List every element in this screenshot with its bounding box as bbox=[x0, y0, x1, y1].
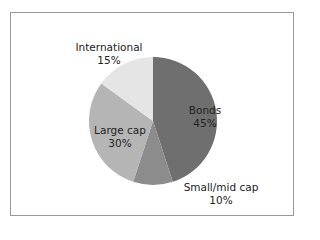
label-international-name: International bbox=[70, 41, 148, 54]
label-large-cap-pct: 30% bbox=[88, 137, 152, 150]
label-bonds-name: Bonds bbox=[180, 104, 230, 117]
label-international-pct: 15% bbox=[70, 54, 148, 67]
label-large-cap-name: Large cap bbox=[88, 124, 152, 137]
label-bonds-pct: 45% bbox=[180, 117, 230, 130]
label-small-mid-cap: Small/mid cap 10% bbox=[176, 181, 266, 207]
label-bonds: Bonds 45% bbox=[180, 104, 230, 130]
label-small-mid-cap-pct: 10% bbox=[176, 194, 266, 207]
label-international: International 15% bbox=[70, 41, 148, 67]
label-small-mid-cap-name: Small/mid cap bbox=[176, 181, 266, 194]
label-large-cap: Large cap 30% bbox=[88, 124, 152, 150]
